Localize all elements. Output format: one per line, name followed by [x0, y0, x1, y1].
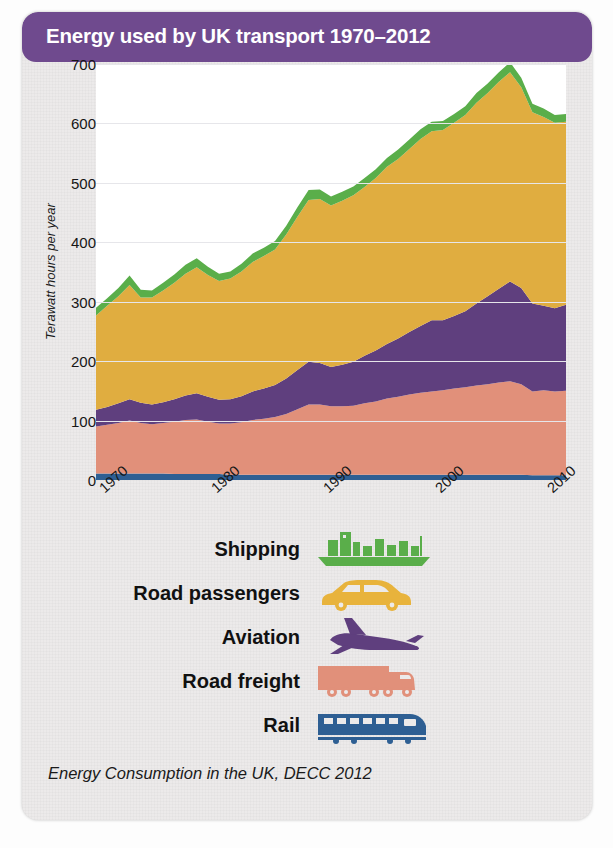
gridline — [96, 361, 566, 362]
gridline — [96, 302, 566, 303]
legend-item-shipping[interactable]: Shipping — [42, 528, 434, 570]
y-axis-ticks: 0100200300400500600700 — [48, 64, 96, 534]
legend-label-aviation: Aviation — [42, 626, 314, 649]
header-bar: Energy used by UK transport 1970–2012 — [22, 12, 592, 62]
legend-item-road-freight[interactable]: Road freight — [42, 660, 434, 702]
car-icon — [314, 572, 434, 614]
source-caption: Energy Consumption in the UK, DECC 2012 — [48, 764, 372, 783]
page-title: Energy used by UK transport 1970–2012 — [46, 24, 431, 48]
gridline — [96, 64, 566, 65]
y-tick-label: 400 — [50, 234, 96, 251]
legend-label-road-passengers: Road passengers — [42, 582, 314, 605]
infographic-card: Energy used by UK transport 1970–2012 Te… — [22, 12, 592, 820]
stacked-area-svg — [96, 64, 566, 480]
y-tick-label: 700 — [50, 56, 96, 73]
truck-icon — [314, 660, 434, 702]
ship-icon — [314, 528, 434, 570]
y-tick-label: 500 — [50, 174, 96, 191]
legend-item-rail[interactable]: Rail — [42, 704, 434, 746]
gridline — [96, 242, 566, 243]
legend-label-rail: Rail — [42, 714, 314, 737]
gridline — [96, 183, 566, 184]
plot-area — [96, 64, 566, 480]
legend: Shipping — [22, 520, 592, 748]
screenshot-page: Energy used by UK transport 1970–2012 Te… — [0, 0, 613, 848]
y-tick-label: 0 — [50, 472, 96, 489]
legend-label-shipping: Shipping — [42, 538, 314, 561]
gridline — [96, 421, 566, 422]
legend-item-road-passengers[interactable]: Road passengers — [42, 572, 434, 614]
y-tick-label: 600 — [50, 115, 96, 132]
y-tick-label: 100 — [50, 412, 96, 429]
y-tick-label: 300 — [50, 293, 96, 310]
plane-icon — [314, 616, 434, 658]
legend-label-road-freight: Road freight — [42, 670, 314, 693]
y-tick-label: 200 — [50, 353, 96, 370]
legend-item-aviation[interactable]: Aviation — [42, 616, 434, 658]
chart-container: Terawatt hours per year 0100200300400500… — [22, 64, 592, 534]
gridline — [96, 123, 566, 124]
train-icon — [314, 704, 434, 746]
